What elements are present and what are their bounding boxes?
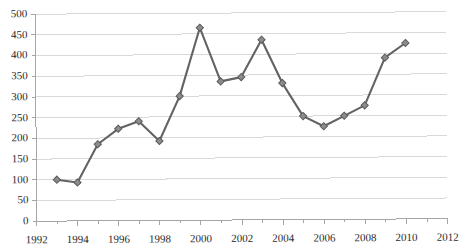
y-axis-tick-label: 0 xyxy=(1,215,29,226)
gridlines xyxy=(35,12,447,222)
y-axis-tick-label: 100 xyxy=(0,174,28,185)
y-axis-tick-label: 300 xyxy=(0,91,28,102)
data-point xyxy=(320,123,327,130)
data-point xyxy=(53,176,60,183)
y-axis-tick-label: 350 xyxy=(0,70,28,81)
chart-plot-area xyxy=(0,0,465,251)
x-axis-tick-label: 1996 xyxy=(99,234,139,245)
x-axis-tick-label: 1994 xyxy=(58,234,98,245)
y-axis-tick-label: 50 xyxy=(0,195,28,206)
data-point xyxy=(341,112,348,119)
x-axis-tick-label: 1992 xyxy=(17,234,57,245)
line-chart: 050100150200250300350400450500 199219941… xyxy=(0,0,465,251)
y-axis-tick-label: 200 xyxy=(0,132,28,143)
data-markers-series-1 xyxy=(52,23,410,186)
y-axis-tick-label: 250 xyxy=(0,112,28,123)
y-axis-tick-label: 150 xyxy=(0,153,28,164)
x-axis-tick-label: 2010 xyxy=(387,232,427,243)
x-axis-tick-label: 2008 xyxy=(345,232,385,243)
y-axis-tick-label: 500 xyxy=(0,8,27,19)
x-axis-tick-label: 2000 xyxy=(181,233,221,244)
x-axis-tick-label: 2004 xyxy=(263,233,303,244)
y-axis-tick-label: 450 xyxy=(0,29,27,40)
data-point xyxy=(196,24,203,31)
x-axis-tick-label: 2006 xyxy=(304,232,344,243)
x-axis-tick-label: 1998 xyxy=(140,233,180,244)
data-point xyxy=(176,93,183,100)
data-point xyxy=(217,78,224,85)
y-axis-tick-label: 400 xyxy=(0,50,28,61)
x-axis-tick-label: 2012 xyxy=(428,232,465,243)
data-point xyxy=(361,102,368,109)
x-axis-tick-label: 2002 xyxy=(222,233,262,244)
